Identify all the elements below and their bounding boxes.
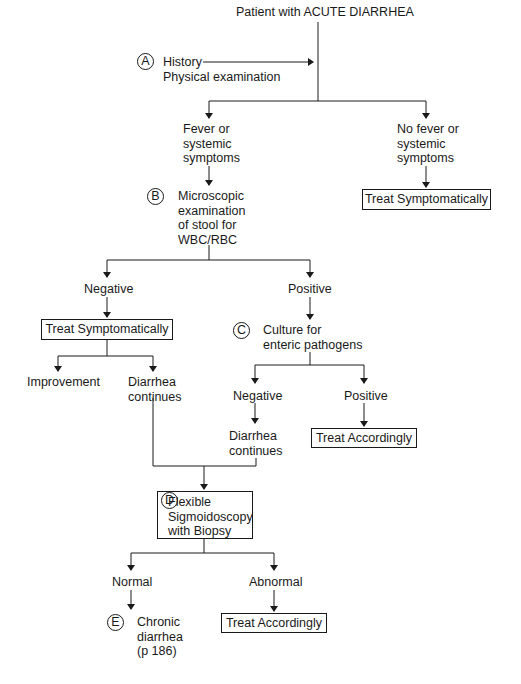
step-d-line-3: with Biopsy [168,524,252,539]
fever-node: Fever or systemic symptoms [183,122,240,166]
fever-line-2: systemic [183,137,240,152]
step-e-line-1: Chronic [137,615,183,630]
stool-positive-label: Positive [288,282,332,297]
no-fever-line-2: systemic [397,137,459,152]
stool-negative-label: Negative [84,282,133,297]
improvement-node: Improvement [27,375,100,390]
diarrhea-continues-node-2: Diarrhea continues [229,429,283,458]
step-b-node: Microscopic examination of stool for WBC… [178,189,245,247]
step-e-marker: E [107,614,124,631]
normal-label: Normal [112,575,152,590]
fever-line-3: symptoms [183,151,240,166]
step-c-node: Culture for enteric pathogens [263,323,362,352]
step-d-line-1: Flexible [168,495,252,510]
step-c-line-2: enteric pathogens [263,338,362,353]
treat-accordingly-box-culture: Treat Accordingly [311,428,417,448]
treat-accordingly-box-sigmoidoscopy: Treat Accordingly [221,613,327,633]
diarrhea-continues-node-1: Diarrhea continues [128,375,182,404]
diarrhea-continues-2-line-2: continues [229,444,283,459]
step-e-line-3: (p 186) [137,644,183,659]
step-b-line-2: examination [178,204,245,219]
step-e-node: Chronic diarrhea (p 186) [137,615,183,659]
diarrhea-continues-2-line-1: Diarrhea [229,429,283,444]
step-a-physical-exam: Physical examination [163,70,280,85]
diarrhea-continues-1-line-2: continues [128,390,182,405]
step-e-line-2: diarrhea [137,630,183,645]
no-fever-node: No fever or systemic symptoms [397,122,459,166]
treat-symptomatically-box-left: Treat Symptomatically [41,319,173,340]
step-a-history: History [163,55,202,70]
culture-positive-label: Positive [344,389,388,404]
fever-line-1: Fever or [183,122,240,137]
abnormal-label: Abnormal [249,575,303,590]
step-d-line-2: Sigmoidoscopy [168,510,252,525]
no-fever-line-3: symptoms [397,151,459,166]
diarrhea-continues-1-line-1: Diarrhea [128,375,182,390]
step-d-box: Flexible Sigmoidoscopy with Biopsy [157,491,253,539]
step-c-marker: C [233,322,250,339]
step-a-marker: A [137,53,154,70]
step-b-marker: B [147,188,164,205]
culture-negative-label: Negative [233,389,282,404]
step-c-line-1: Culture for [263,323,362,338]
flowchart-title: Patient with ACUTE DIARRHEA [236,5,414,20]
step-b-line-4: WBC/RBC [178,233,245,248]
step-b-line-3: of stool for [178,218,245,233]
step-b-line-1: Microscopic [178,189,245,204]
no-fever-line-1: No fever or [397,122,459,137]
treat-symptomatically-box-right: Treat Symptomatically [362,189,491,210]
